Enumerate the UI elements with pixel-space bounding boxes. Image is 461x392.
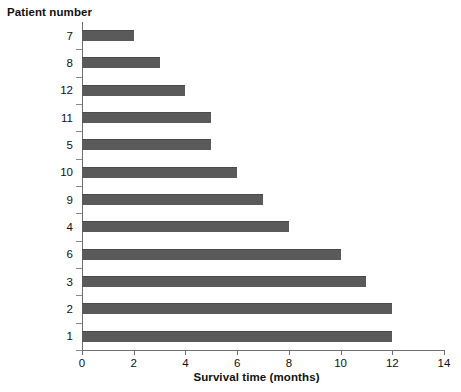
x-axis-title: Survival time (months) <box>0 371 461 383</box>
x-axis-tick <box>82 350 83 355</box>
y-axis-tick <box>76 159 82 160</box>
bar-patient-1 <box>82 331 392 342</box>
bar-patient-4 <box>82 221 289 232</box>
bar-patient-6 <box>82 249 341 260</box>
x-axis-tick-label: 10 <box>321 357 361 369</box>
y-axis-tick-label: 5 <box>13 139 73 151</box>
y-axis-tick <box>76 268 82 269</box>
y-axis-tick <box>76 323 82 324</box>
bar-patient-11 <box>82 112 211 123</box>
plot-area <box>82 22 444 350</box>
bar-patient-2 <box>82 303 392 314</box>
bar-row <box>82 323 444 350</box>
bar-row <box>82 268 444 295</box>
bar-row <box>82 186 444 213</box>
y-axis-tick-label: 7 <box>13 30 73 42</box>
x-axis-tick-label: 0 <box>62 357 102 369</box>
y-axis-tick-label: 11 <box>13 112 73 124</box>
y-axis-tick-label: 12 <box>13 84 73 96</box>
y-axis-tick <box>76 77 82 78</box>
bar-patient-10 <box>82 167 237 178</box>
y-axis-title: Patient number <box>7 6 92 18</box>
bar-row <box>82 131 444 158</box>
bar-row <box>82 295 444 322</box>
bar-patient-8 <box>82 57 160 68</box>
bar-row <box>82 104 444 131</box>
y-axis-tick-label: 1 <box>13 330 73 342</box>
x-axis-tick <box>392 350 393 355</box>
y-axis-tick <box>76 186 82 187</box>
bar-row <box>82 22 444 49</box>
bar-row <box>82 213 444 240</box>
y-axis-tick-label: 10 <box>13 166 73 178</box>
y-axis-tick-label: 3 <box>13 276 73 288</box>
x-axis-tick <box>134 350 135 355</box>
x-axis-tick-label: 12 <box>372 357 412 369</box>
x-axis-tick-label: 2 <box>114 357 154 369</box>
bar-patient-7 <box>82 30 134 41</box>
bar-row <box>82 49 444 76</box>
y-axis-tick <box>76 241 82 242</box>
bar-patient-12 <box>82 85 185 96</box>
x-axis-tick-label: 6 <box>217 357 257 369</box>
bar-row <box>82 241 444 268</box>
y-axis-tick-label: 4 <box>13 221 73 233</box>
survival-time-bar-chart: Patient number Survival time (months) 78… <box>0 0 461 392</box>
x-axis-tick <box>237 350 238 355</box>
x-axis-tick <box>444 350 445 355</box>
y-axis-tick-label: 6 <box>13 248 73 260</box>
bar-row <box>82 159 444 186</box>
bar-patient-9 <box>82 194 263 205</box>
x-axis-tick <box>341 350 342 355</box>
x-axis-title-text: Survival time (months) <box>193 371 319 383</box>
y-axis-tick-label: 8 <box>13 57 73 69</box>
x-axis-tick <box>185 350 186 355</box>
x-axis-tick-label: 4 <box>165 357 205 369</box>
bar-patient-3 <box>82 276 366 287</box>
y-axis-tick-label: 9 <box>13 194 73 206</box>
y-axis-tick <box>76 104 82 105</box>
y-axis-tick <box>76 213 82 214</box>
y-axis-tick-label: 2 <box>13 303 73 315</box>
y-axis-tick <box>76 131 82 132</box>
y-axis-tick <box>76 295 82 296</box>
x-axis-tick-label: 14 <box>424 357 461 369</box>
bar-row <box>82 77 444 104</box>
x-axis-tick-label: 8 <box>269 357 309 369</box>
bar-patient-5 <box>82 139 211 150</box>
x-axis-tick <box>289 350 290 355</box>
x-axis-line <box>82 350 445 351</box>
y-axis-tick <box>76 49 82 50</box>
